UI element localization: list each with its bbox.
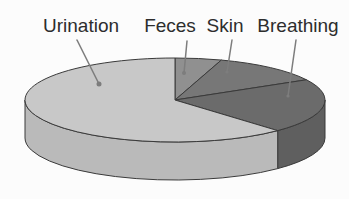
leader-dot-feces [182,71,186,75]
leader-dot-skin [225,70,228,73]
water-loss-pie-figure: Urination Feces Skin Breathing [0,0,349,199]
label-urination: Urination [43,16,119,35]
leader-dot-urination [97,82,102,87]
label-skin: Skin [207,16,244,35]
label-feces: Feces [144,16,196,35]
leader-dot-breathing [286,94,289,97]
label-breathing: Breathing [257,16,338,35]
